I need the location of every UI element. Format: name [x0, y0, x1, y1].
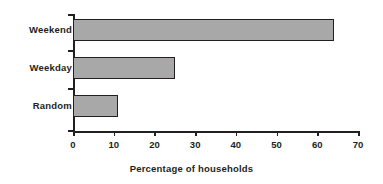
x-axis-tick — [236, 131, 238, 136]
x-axis-tick — [317, 131, 319, 136]
x-axis-tick — [154, 131, 156, 136]
x-axis-tick-label: 50 — [262, 139, 292, 150]
x-axis-tick-label: 20 — [139, 139, 169, 150]
category-label-weekday: Weekday — [2, 63, 72, 73]
x-axis-tick — [277, 131, 279, 136]
category-label-weekend: Weekend — [2, 25, 72, 35]
x-axis-tick — [358, 131, 360, 136]
x-axis-tick-label: 40 — [221, 139, 251, 150]
x-axis-line — [73, 131, 359, 133]
x-axis-tick-label: 30 — [180, 139, 210, 150]
x-axis-tick-label: 60 — [302, 139, 332, 150]
plot-area — [73, 14, 358, 131]
x-axis-tick-label: 0 — [58, 139, 88, 150]
bar-random — [73, 95, 118, 117]
x-axis-tick — [195, 131, 197, 136]
x-axis-tick-label: 10 — [99, 139, 129, 150]
bar-weekday — [73, 57, 175, 79]
x-axis-title: Percentage of households — [0, 163, 383, 174]
x-axis-tick — [73, 131, 75, 136]
bar-weekend — [73, 19, 334, 41]
category-label-random: Random — [2, 101, 72, 111]
bar-chart: Weekend Weekday Random 010203040506070 P… — [0, 0, 383, 184]
x-axis-tick-label: 70 — [343, 139, 373, 150]
x-axis-tick — [114, 131, 116, 136]
